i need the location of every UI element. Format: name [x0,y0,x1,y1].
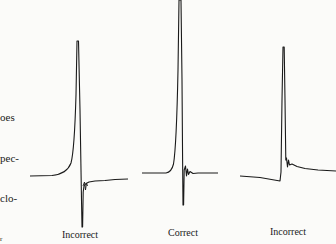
waveform-right-incorrect [240,47,336,181]
waveform-left-incorrect [30,41,128,227]
panel-label-right: Incorrect [270,226,306,238]
waveform-figure [0,0,336,244]
panel-label-middle: Correct [168,227,198,239]
panel-label-left: Incorrect [62,229,98,241]
waveform-middle-correct [142,0,218,205]
